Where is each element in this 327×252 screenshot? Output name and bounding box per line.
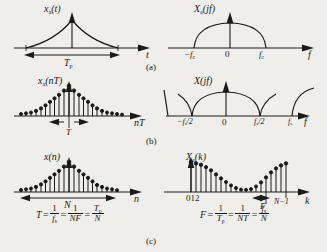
panel-a-left-plot [0, 0, 164, 72]
panel-letter-a: (a) [146, 62, 156, 72]
fraction-one-over-fs: 1fs [50, 204, 59, 223]
panel-c-right: Xa(k) 012 F N−1 k [164, 152, 327, 212]
panel-b-right-tick-neg-fs-half: −fs/2 [177, 118, 193, 126]
fraction-tp-over-n: TpN [92, 204, 104, 223]
panel-c-right-axis-label: k [305, 196, 309, 206]
equation-frequency-resolution: F = 1Tp = 1NT = fsN [200, 205, 269, 224]
panel-b-right: X(jf) −fs/2 0 fs/2 fs f [164, 76, 327, 148]
panel-c-left-plot [0, 152, 164, 212]
panel-a-left: xa(t) t Tp [0, 0, 164, 72]
panel-a-right-tick-fc: fc [259, 50, 264, 59]
panel-c-right-signal-label: Xa(k) [186, 152, 206, 162]
panel-b-left-signal-label: xa(nT) [38, 76, 62, 86]
panel-c-left-axis-label: n [134, 194, 139, 204]
panel-b-right-signal-label: X(jf) [194, 76, 212, 86]
fraction-fs-over-n: fsN [259, 204, 269, 223]
panel-c-right-end-label: N−1 [274, 198, 289, 206]
panel-a-right-tick-neg-fc: −fc [184, 50, 195, 59]
panel-b-left-plot [0, 76, 164, 148]
panel-letter-c: (c) [146, 236, 156, 246]
panel-a-right-axis-label: f [308, 50, 311, 60]
panel-b-right-plot [164, 76, 327, 148]
panel-c-left: x(n) n N [0, 152, 164, 212]
panel-b-left-span-label: T [66, 128, 71, 137]
panel-b-right-tick-zero: 0 [222, 118, 227, 127]
fraction-one-over-nf: 1NF [68, 204, 84, 223]
panel-a-right-tick-zero: 0 [225, 50, 230, 59]
fraction-one-over-tp: 1Tp [215, 204, 227, 223]
panel-b-left-axis-label: nT [134, 118, 145, 128]
panel-a-left-span-label: Tp [64, 58, 73, 68]
panel-a-right-plot [164, 0, 327, 72]
dsp-sampling-figure: xa(t) t Tp Xa(jf) −fc 0 fc f (a) [0, 0, 327, 252]
panel-c-left-signal-label: x(n) [44, 152, 60, 162]
fraction-one-over-nt: 1NT [235, 204, 250, 223]
panel-a-left-axis-label: t [146, 50, 149, 60]
panel-a-left-signal-label: xa(t) [44, 4, 61, 14]
panel-c-right-origin-ticks: 012 [186, 194, 200, 203]
panel-b-right-tick-fs-half: fs/2 [254, 118, 264, 126]
panel-letter-b: (b) [146, 136, 157, 146]
equation-sampling-period: T = 1fs = 1NF = TpN [36, 205, 104, 224]
panel-b-right-tick-fs: fs [288, 118, 292, 126]
panel-a-right-signal-label: Xa(jf) [194, 4, 215, 14]
panel-b-right-axis-label: f [304, 117, 307, 127]
panel-a-right: Xa(jf) −fc 0 fc f [164, 0, 327, 72]
panel-b-left: xa(nT) nT T [0, 76, 164, 148]
